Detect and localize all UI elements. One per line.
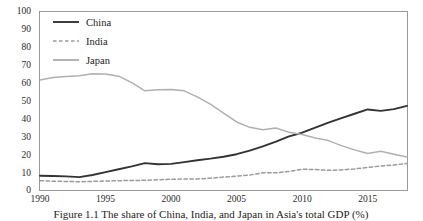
y-tick-label: 40	[22, 114, 32, 124]
y-tick-label: 60	[22, 78, 32, 88]
y-tick-label: 50	[22, 96, 32, 106]
x-tick-label: 1995	[96, 194, 115, 204]
legend-label-china: China	[86, 17, 111, 28]
y-tick-label: 80	[22, 42, 32, 52]
y-tick-label: 10	[22, 168, 32, 178]
figure-background	[0, 0, 423, 221]
legend-label-japan: Japan	[86, 55, 111, 66]
x-tick-label: 2015	[358, 194, 377, 204]
legend-label-india: India	[86, 36, 108, 47]
y-tick-label: 70	[22, 60, 32, 70]
x-tick-label: 2005	[227, 194, 246, 204]
figure-caption: Figure 1.1 The share of China, India, an…	[54, 208, 369, 221]
x-tick-label: 2010	[293, 194, 312, 204]
y-tick-label: 30	[22, 132, 32, 142]
y-tick-label: 90	[22, 24, 32, 34]
x-tick-label: 2000	[162, 194, 181, 204]
y-tick-label: 100	[17, 6, 32, 16]
x-tick-label: 1990	[31, 194, 50, 204]
figure-chart: 1009080706050403020100 19901995200020052…	[0, 0, 423, 221]
y-tick-label: 20	[22, 150, 32, 160]
